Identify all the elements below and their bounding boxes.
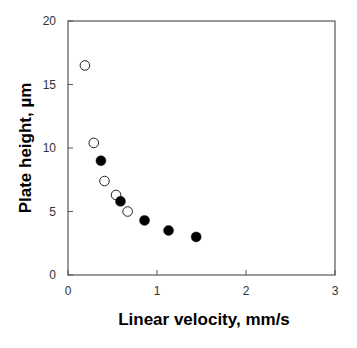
x-tick-label: 0 (65, 284, 72, 298)
filled-circle-marker (191, 232, 201, 242)
filled-circle-marker (140, 215, 150, 225)
y-tick-label: 15 (43, 78, 57, 92)
y-tick-label: 5 (49, 205, 56, 219)
y-tick-label: 20 (43, 14, 57, 28)
y-tick-label: 0 (49, 268, 56, 282)
data-points (80, 61, 201, 242)
open-circle-marker (80, 61, 90, 71)
scatter-chart: 0123 05101520 Linear velocity, mm/s Plat… (0, 0, 357, 348)
y-tick-label: 10 (43, 141, 57, 155)
x-axis-title: Linear velocity, mm/s (118, 310, 290, 329)
x-tick-label: 1 (154, 284, 161, 298)
x-tick-label: 2 (243, 284, 250, 298)
plot-frame (68, 21, 335, 275)
y-axis-title: Plate height, µm (16, 83, 35, 214)
open-circle-marker (123, 207, 133, 217)
x-tick-label: 3 (332, 284, 339, 298)
filled-circle-marker (96, 156, 106, 166)
open-circle-marker (100, 176, 110, 186)
filled-circle-marker (116, 196, 126, 206)
open-circle-marker (89, 138, 99, 148)
x-axis-ticks: 0123 (65, 270, 339, 298)
filled-circle-marker (164, 226, 174, 236)
